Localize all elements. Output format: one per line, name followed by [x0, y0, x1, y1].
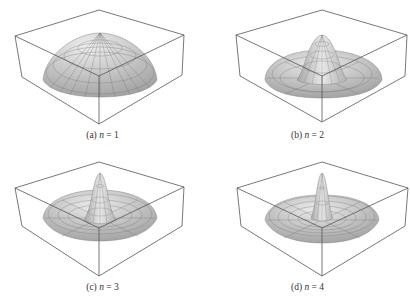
- caption-value: 4: [319, 282, 324, 292]
- caption-equals: =: [104, 282, 114, 292]
- caption-value: 1: [114, 130, 119, 140]
- caption-c: (c) n = 3: [0, 282, 205, 292]
- caption-value: 2: [319, 130, 324, 140]
- caption-equals: =: [309, 282, 319, 292]
- caption-equals: =: [104, 130, 114, 140]
- panel-a: (a) n = 1: [0, 0, 205, 148]
- panel-d: (d) n = 4: [205, 148, 410, 296]
- caption-b: (b) n = 2: [205, 130, 410, 140]
- caption-label: (d): [291, 282, 302, 292]
- caption-d: (d) n = 4: [205, 282, 410, 292]
- surface-plot-b: [205, 0, 410, 148]
- panel-b: (b) n = 2: [205, 0, 410, 148]
- panel-c: (c) n = 3: [0, 148, 205, 296]
- caption-equals: =: [309, 130, 319, 140]
- surface-plot-a: [0, 0, 205, 148]
- caption-value: 3: [114, 282, 119, 292]
- surface-plot-d: [205, 148, 410, 296]
- caption-a: (a) n = 1: [0, 130, 205, 140]
- surface-plot-c: [0, 148, 205, 296]
- caption-label: (a): [86, 130, 97, 140]
- caption-label: (c): [86, 282, 97, 292]
- caption-label: (b): [291, 130, 302, 140]
